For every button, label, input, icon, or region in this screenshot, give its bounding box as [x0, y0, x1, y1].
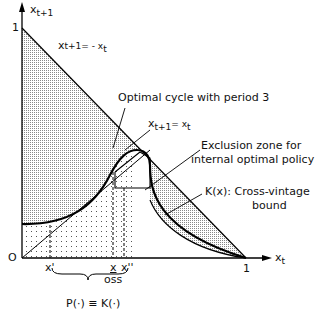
exclusion-annotation-2: internal optimal policy	[191, 154, 314, 166]
x-dprime-tick: x''	[121, 262, 134, 274]
antidiagonal-label: xt+1= - xt	[58, 40, 107, 55]
y-axis-arrow-icon	[19, 2, 25, 12]
cycle-annotation: Optimal cycle with period 3	[118, 92, 269, 104]
exclusion-annotation-1: Exclusion zone for	[201, 140, 301, 152]
diagonal-label: xt+1= xt	[148, 118, 191, 133]
brace-label: P(·) ≡ K(·)	[66, 298, 120, 310]
x-axis-label: xt	[275, 252, 285, 267]
x-prime-tick: x'	[45, 262, 55, 274]
origin-label: O	[8, 252, 17, 264]
y-axis-label: xt+1	[30, 4, 53, 19]
oss-tick: oss	[104, 274, 122, 286]
y-max-label: 1	[12, 22, 19, 34]
kx-annotation-1: K(x): Cross-vintage	[205, 186, 310, 198]
x-axis-arrow-icon	[262, 255, 272, 261]
kx-annotation-2: bound	[252, 200, 287, 212]
x-max-label: 1	[243, 263, 250, 275]
